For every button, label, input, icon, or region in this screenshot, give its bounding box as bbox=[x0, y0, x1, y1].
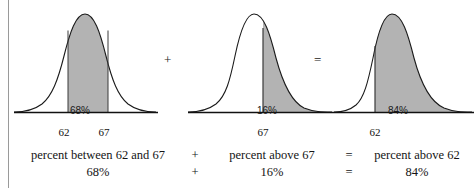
caption-row2-term1: 68% bbox=[14, 165, 182, 180]
caption-block: percent between 62 and 67 + percent abov… bbox=[14, 147, 472, 180]
tick-label-67-panel-1: 67 bbox=[94, 126, 114, 138]
operator-plus-curves: + bbox=[164, 52, 171, 68]
operator-equals-curves: = bbox=[314, 52, 321, 68]
caption-row1-term2: percent above 67 bbox=[208, 148, 336, 163]
percent-label-16: 16% bbox=[257, 105, 277, 116]
caption-row2-term3: 84% bbox=[362, 165, 472, 180]
tick-label-67-panel-2: 67 bbox=[253, 126, 273, 138]
tick-label-62-panel-3: 62 bbox=[365, 126, 385, 138]
left-margin-rule bbox=[8, 0, 9, 188]
caption-row1-op1: + bbox=[182, 148, 208, 163]
curve-outline-2 bbox=[188, 14, 332, 112]
caption-row1-term3: percent above 62 bbox=[362, 148, 472, 163]
caption-row1-op2: = bbox=[336, 148, 362, 163]
tick-label-62-panel-1: 62 bbox=[54, 126, 74, 138]
shaded-region-right-of-62 bbox=[334, 14, 472, 112]
percent-label-84: 84% bbox=[388, 105, 408, 116]
shaded-region-between bbox=[14, 14, 156, 112]
caption-row2-op1: + bbox=[182, 165, 208, 180]
caption-row1-term1: percent between 62 and 67 bbox=[14, 148, 182, 163]
caption-row2-op2: = bbox=[336, 165, 362, 180]
percent-label-68: 68% bbox=[70, 105, 90, 116]
shaded-region-right-tail-67 bbox=[188, 14, 332, 112]
caption-row2-term2: 16% bbox=[208, 165, 336, 180]
figure-stage: 68% 62 67 + 16% 67 = 84% 62 percent bet bbox=[0, 0, 476, 188]
